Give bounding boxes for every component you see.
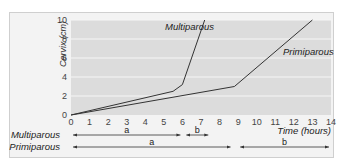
- x-tick-label: 4: [143, 117, 148, 127]
- series-label-primiparous: Primiparous: [283, 46, 334, 57]
- y-tick-label: 4: [62, 72, 67, 82]
- y-tick-label: 0: [62, 110, 67, 120]
- x-tick-label: 0: [68, 117, 73, 127]
- phase-row-label-multiparous: Multiparous: [11, 129, 60, 140]
- y-tick-label: 2: [62, 91, 67, 101]
- x-tick-label: 9: [236, 117, 241, 127]
- phase-label-b: b: [195, 125, 200, 135]
- phase-label-a: a: [124, 125, 129, 135]
- phase-row-label-primiparous: Primiparous: [9, 141, 60, 152]
- plot-area: [71, 20, 333, 115]
- x-tick-label: 2: [106, 117, 111, 127]
- phase-label-a: a: [149, 137, 154, 147]
- y-axis-label: Cervix (cm): [58, 21, 68, 67]
- phase-label-b: b: [282, 137, 287, 147]
- x-tick-label: 10: [252, 117, 262, 127]
- x-tick-label: 6: [180, 117, 185, 127]
- series-label-multiparous: Multiparous: [165, 21, 214, 32]
- x-tick-label: 1: [87, 117, 92, 127]
- x-tick-label: 5: [161, 117, 166, 127]
- x-tick-label: 8: [217, 117, 222, 127]
- x-axis-label: Time (hours): [277, 125, 331, 136]
- labour-curve-chart: 0246810 01234567891011121314 Cervix (cm)…: [0, 0, 350, 165]
